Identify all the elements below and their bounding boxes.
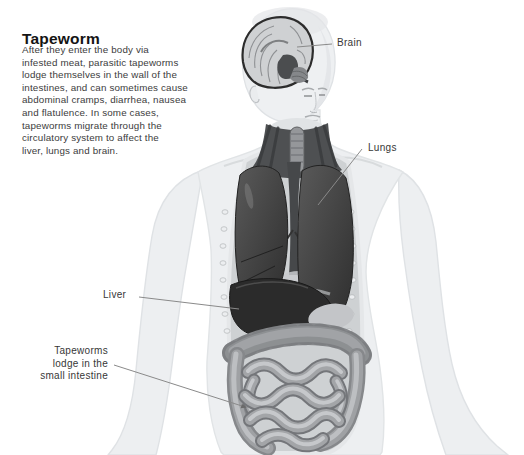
tapeworms-label-line: small intestine [28, 370, 108, 383]
lungs-label: Lungs [368, 142, 397, 155]
tapeworms-label-line: lodge in the [28, 358, 108, 371]
description-line: After they enter the body via [22, 44, 206, 57]
liver-label: Liver [103, 289, 126, 302]
description-line: intestines, and can sometimes cause [22, 82, 206, 95]
description-line: abdominal cramps, diarrhea, nausea [22, 94, 206, 107]
description-line: infested meat, parasitic tapeworms [22, 57, 206, 70]
brain-illustration [243, 17, 313, 88]
head [243, 7, 335, 122]
description-line: liver, lungs and brain. [22, 145, 206, 158]
description-line: tapeworms migrate through the [22, 120, 206, 133]
brain-label: Brain [337, 37, 362, 50]
tapeworms-label-line: Tapeworms [28, 345, 108, 358]
description-line: circulatory system to affect the [22, 132, 206, 145]
tapeworms-label: Tapeworms lodge in the small intestine [28, 345, 108, 383]
description-paragraph: After they enter the body via infested m… [22, 44, 206, 157]
left-arm [108, 170, 203, 455]
description-line: and flatulence. In some cases, [22, 107, 206, 120]
tapeworm-diagram-page: Tapeworm After they enter the body via i… [0, 0, 524, 455]
right-arm [399, 170, 508, 455]
description-line: lodge themselves in the wall of the [22, 69, 206, 82]
